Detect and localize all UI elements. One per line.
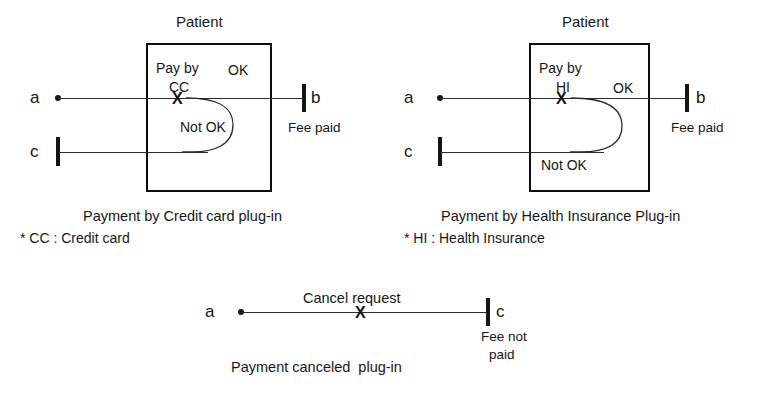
lifeline-terminal-bar-c-cancel [486, 298, 490, 326]
lifeline-terminal-bar-b-credit-card [302, 84, 306, 112]
branch-label-not-ok-credit-card: Not OK [180, 120, 226, 134]
lifeline-label-c-health-insurance: c [404, 143, 413, 160]
figure-canvas: Patient a c b Fee paid Pay by CC X OK No… [0, 0, 773, 393]
message-line-c-health-insurance [440, 152, 604, 153]
branch-curves-overlay [0, 0, 773, 393]
footnote-health-insurance: * HI : Health Insurance [404, 231, 545, 245]
action-x-mark-credit-card: X [172, 91, 183, 107]
branch-label-not-ok-health-insurance: Not OK [541, 158, 587, 172]
lifeline-label-b-health-insurance: b [696, 89, 705, 106]
lifeline-note-paid-cancel: paid [489, 348, 515, 362]
footnote-credit-card: * CC : Credit card [20, 231, 130, 245]
lifeline-note-fee-paid-health-insurance: Fee paid [671, 121, 724, 135]
frame-title-credit-card: Patient [176, 14, 223, 29]
action-label-cancel-request: Cancel request [303, 291, 401, 306]
message-line-c-credit-card [58, 152, 208, 153]
lifeline-note-fee-paid-credit-card: Fee paid [288, 121, 341, 135]
caption-credit-card: Payment by Credit card plug-in [83, 209, 282, 224]
action-label-pay-by-credit-card: Pay by [156, 61, 199, 75]
caption-health-insurance: Payment by Health Insurance Plug-in [441, 209, 680, 224]
branch-label-ok-health-insurance: OK [613, 81, 633, 95]
lifeline-label-a-credit-card: a [30, 89, 39, 106]
lifeline-note-fee-not-cancel: Fee not [481, 330, 527, 344]
action-label-pay-by-health-insurance: Pay by [539, 61, 582, 75]
branch-label-ok-credit-card: OK [228, 63, 248, 77]
frame-title-health-insurance: Patient [562, 14, 609, 29]
lifeline-label-b-credit-card: b [311, 89, 320, 106]
lifeline-terminal-bar-b-health-insurance [685, 84, 689, 112]
caption-cancel: Payment canceled plug-in [231, 360, 402, 375]
action-x-mark-cancel: X [355, 305, 366, 321]
lifeline-label-a-health-insurance: a [404, 89, 413, 106]
lifeline-label-a-cancel: a [205, 303, 214, 320]
lifeline-label-c-credit-card: c [30, 143, 39, 160]
action-x-mark-health-insurance: X [556, 91, 567, 107]
lifeline-label-c-cancel: c [496, 303, 505, 320]
